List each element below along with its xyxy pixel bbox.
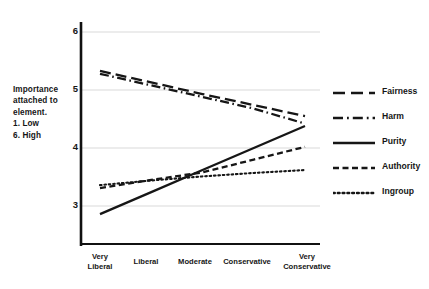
x-tick-label-conservative: Conservative — [218, 257, 276, 267]
y-tick-label-3: 3 — [64, 199, 78, 210]
legend-label-purity: Purity — [382, 136, 406, 146]
y-tick-label-5: 5 — [64, 83, 78, 94]
legend-swatch-authority — [333, 166, 375, 170]
x-tick-label-liberal: Liberal — [126, 257, 166, 267]
x-tick-line-2: Liberal — [88, 262, 113, 271]
legend-label-ingroup: Ingroup — [382, 186, 414, 196]
series-line-ingroup — [100, 170, 305, 185]
legend-item-fairness[interactable]: Fairness — [333, 82, 429, 107]
x-tick-line-1: Very — [92, 252, 108, 261]
x-tick-label-very-conservative: VeryConservative — [276, 252, 338, 271]
y-tick-label-4: 4 — [64, 141, 78, 152]
legend-item-ingroup[interactable]: Ingroup — [333, 182, 429, 207]
chart-legend: Fairness Harm Purity Authority Ingroup — [333, 82, 429, 207]
x-tick-label-very-liberal: VeryLiberal — [76, 252, 124, 271]
chart-figure: Importance attached to element. 1. Low 6… — [0, 0, 429, 289]
legend-swatch-purity — [333, 141, 375, 145]
legend-swatch-ingroup — [333, 191, 375, 195]
legend-label-harm: Harm — [382, 111, 404, 121]
x-tick-line-1: Very — [299, 252, 315, 261]
legend-item-purity[interactable]: Purity — [333, 132, 429, 157]
legend-item-authority[interactable]: Authority — [333, 157, 429, 182]
x-tick-label-moderate: Moderate — [172, 257, 218, 267]
legend-swatch-fairness — [333, 91, 375, 95]
series-line-harm — [100, 74, 305, 124]
legend-swatch-harm — [333, 116, 375, 120]
legend-item-harm[interactable]: Harm — [333, 107, 429, 132]
legend-label-authority: Authority — [382, 161, 420, 171]
y-tick-label-6: 6 — [64, 25, 78, 36]
x-tick-line-2: Conservative — [283, 262, 331, 271]
series-line-fairness — [100, 71, 305, 116]
series-line-purity — [100, 126, 305, 214]
legend-label-fairness: Fairness — [382, 86, 417, 96]
